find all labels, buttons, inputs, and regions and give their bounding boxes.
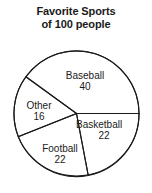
pie-label-baseball-value: 40 (55, 81, 115, 92)
pie-label-basketball-name: Basketball (76, 119, 142, 130)
pie-label-other: Other 16 (16, 100, 62, 122)
pie-label-football-value: 22 (30, 154, 90, 165)
pie-label-baseball: Baseball 40 (55, 70, 115, 92)
pie-label-football-name: Football (30, 143, 90, 154)
pie-label-football: Football 22 (30, 143, 90, 165)
pie-label-baseball-name: Baseball (55, 70, 115, 81)
pie-label-basketball: Basketball 22 (76, 119, 142, 141)
pie-label-other-value: 16 (16, 111, 62, 122)
pie-label-basketball-value: 22 (76, 130, 132, 141)
pie-chart-figure: Favorite Sports of 100 people Baseball 4… (0, 0, 152, 193)
pie-label-other-name: Other (16, 100, 62, 111)
